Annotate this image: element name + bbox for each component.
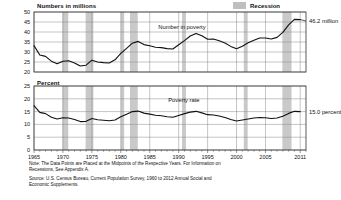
recession-band <box>244 86 248 150</box>
y-axis-tick-label: 15 <box>16 109 30 115</box>
y-axis-tick-label: 0 <box>16 147 30 153</box>
top-series-label: Number in poverty <box>158 24 205 30</box>
x-axis-tick-label: 2000 <box>226 154 248 160</box>
bottom-end-value-label: 15.0 percent <box>309 109 341 115</box>
y-axis-tick-label: 35 <box>16 39 30 45</box>
y-axis-tick-label: 5 <box>16 134 30 140</box>
x-axis-tick-label: 1985 <box>139 154 161 160</box>
y-axis-tick-label: 30 <box>16 49 30 55</box>
recession-swatch-icon <box>233 2 246 9</box>
x-axis-tick-label: 1975 <box>81 154 103 160</box>
bottom-series-label: Poverty rate <box>168 97 199 103</box>
recession-band <box>86 86 94 150</box>
y-axis-tick-label: 25 <box>16 83 30 89</box>
y-axis-tick-label: 50 <box>16 9 30 15</box>
x-axis-tick-label: 1980 <box>110 154 132 160</box>
x-axis-tick-label: 1970 <box>52 154 74 160</box>
y-axis-tick-label: 20 <box>16 69 30 75</box>
x-axis-tick-label: 2011 <box>289 154 311 160</box>
top-end-value-label: 46.2 million <box>309 18 338 24</box>
top-panel-axis-title: Numbers in millions <box>37 3 96 9</box>
recession-band <box>130 86 138 150</box>
y-axis-tick-label: 40 <box>16 29 30 35</box>
source-text: Source: U.S. Census Bureau, Current Popu… <box>29 176 212 188</box>
x-axis-tick-label: 1995 <box>197 154 219 160</box>
y-axis-tick-label: 45 <box>16 19 30 25</box>
recession-band <box>282 86 291 150</box>
x-axis-tick-label: 2005 <box>254 154 276 160</box>
recession-band <box>182 86 186 150</box>
end-value-leader-line <box>300 20 306 21</box>
note-text: Note: The Data Points are Placed at the … <box>29 161 221 173</box>
recession-band <box>121 86 124 150</box>
x-axis-tick-label: 1965 <box>23 154 45 160</box>
series-line-poverty-rate <box>34 106 300 122</box>
x-axis-tick-label: 1990 <box>168 154 190 160</box>
y-axis-tick-label: 20 <box>16 96 30 102</box>
recession-legend: Recession <box>233 2 280 9</box>
recession-legend-label: Recession <box>250 3 280 9</box>
y-axis-tick-label: 10 <box>16 121 30 127</box>
bottom-panel-axis-title: Percent <box>37 80 60 86</box>
y-axis-tick-label: 25 <box>16 59 30 65</box>
